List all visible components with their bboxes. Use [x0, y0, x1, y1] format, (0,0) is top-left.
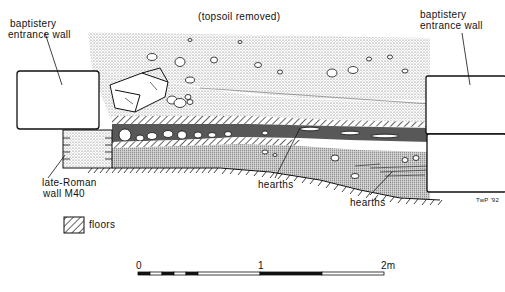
right-baptistery-wall-upper: [426, 76, 505, 134]
scale-tick-2m: 2m: [381, 260, 396, 271]
left-baptistery-wall: [17, 71, 99, 129]
left-wall-label-line1: baptistery: [10, 18, 56, 29]
roman-wall-label-line1: late-Roman: [42, 177, 97, 188]
left-wall-label-line2: entrance wall: [8, 29, 71, 40]
floors-legend-swatch: [64, 217, 84, 233]
late-roman-wall-m40: [63, 130, 112, 168]
hearths-label-2: hearths: [350, 197, 385, 208]
signature: TwP '92: [476, 195, 499, 206]
right-wall-label-line1: baptistery: [420, 9, 466, 20]
right-baptistery-wall-lower: [427, 134, 505, 192]
topsoil-label: (topsoil removed): [198, 11, 280, 22]
scale-tick-0: 0: [136, 260, 142, 271]
scale-bar: [138, 272, 384, 275]
floors-legend-label: floors: [89, 219, 115, 230]
right-wall-label-line2: entrance wall: [420, 20, 483, 31]
scale-tick-1: 1: [258, 260, 264, 271]
roman-wall-label-line2: wall M40: [43, 188, 85, 199]
hearths-label-1: hearths: [258, 179, 293, 190]
section-drawing: [0, 0, 505, 292]
